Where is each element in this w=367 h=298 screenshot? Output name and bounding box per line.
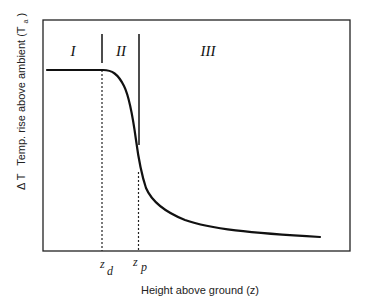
svg-text:z: z (132, 255, 138, 269)
zp-label: z p (132, 255, 147, 274)
zd-label: z d (99, 257, 114, 278)
svg-text:p: p (140, 260, 147, 274)
svg-text:Δ T Temp. rise above amb: Δ T Temp. rise above ambient (T a ) (15, 13, 30, 190)
svg-text:z: z (99, 257, 105, 271)
temperature-height-diagram: I II III z d z p Height above ground (z)… (0, 0, 367, 298)
svg-text:d: d (107, 264, 114, 278)
region-label-iii: III (200, 43, 217, 59)
delta-t-symbol: Δ T (15, 173, 27, 190)
plot-frame (43, 20, 350, 251)
y-axis-label: Δ T Temp. rise above ambient (T a ) (15, 13, 30, 190)
region-label-i: I (70, 43, 77, 59)
temperature-curve (47, 70, 320, 237)
region-label-ii: II (115, 43, 127, 59)
x-axis-label: Height above ground (z) (141, 284, 259, 296)
